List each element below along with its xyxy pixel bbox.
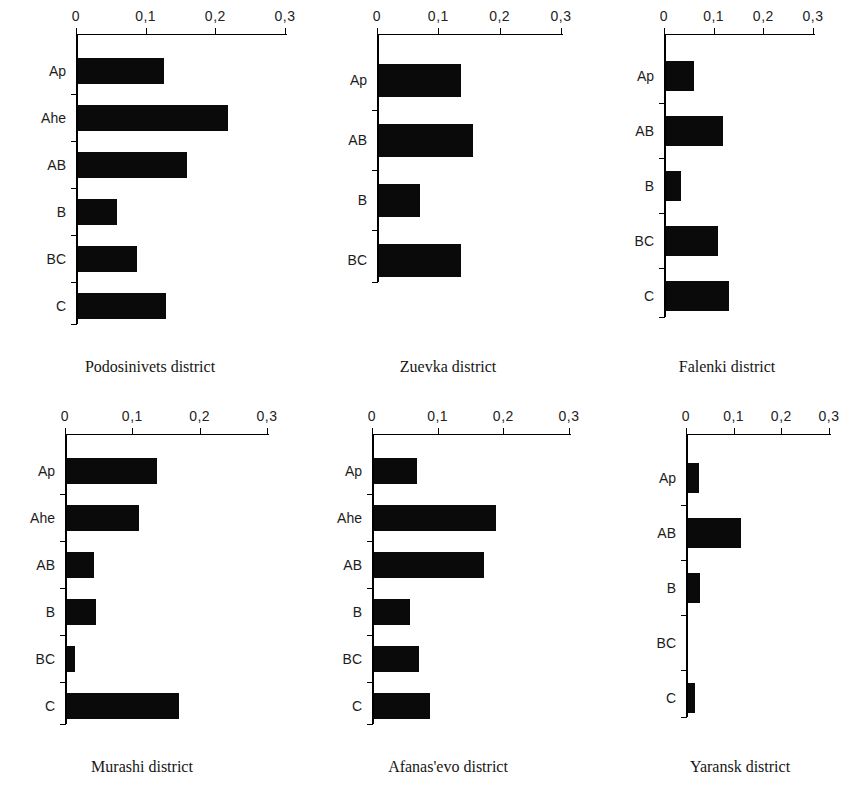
y-axis-tick xyxy=(681,505,687,506)
figure-canvas: 00,10,20,3ApAheABBBCCPodosinivets distri… xyxy=(0,0,854,787)
x-axis-tick-label: 0,1 xyxy=(723,408,744,424)
category-label: C xyxy=(626,690,676,706)
y-axis-tick xyxy=(681,615,687,616)
category-label: BC xyxy=(626,635,676,651)
chart-panel: 00,10,20,3ApABBBCCYaransk district xyxy=(0,0,854,787)
y-axis-tick xyxy=(681,560,687,561)
y-axis-end-tick xyxy=(681,717,687,718)
x-axis-tick-label: 0,2 xyxy=(771,408,792,424)
bar xyxy=(688,463,699,493)
x-axis-tick xyxy=(734,428,735,434)
bar xyxy=(688,683,695,713)
bar xyxy=(688,518,741,548)
category-label: B xyxy=(626,580,676,596)
panel-caption: Yaransk district xyxy=(690,758,790,776)
x-axis-tick-label: 0,3 xyxy=(819,408,840,424)
x-axis-tick-label: 0 xyxy=(682,408,690,424)
x-axis-line xyxy=(686,434,831,435)
x-axis-tick xyxy=(829,428,830,434)
x-axis-tick xyxy=(781,428,782,434)
category-label: AB xyxy=(626,525,676,541)
category-label: Ap xyxy=(626,470,676,486)
bar xyxy=(688,573,700,603)
y-axis-tick xyxy=(681,670,687,671)
